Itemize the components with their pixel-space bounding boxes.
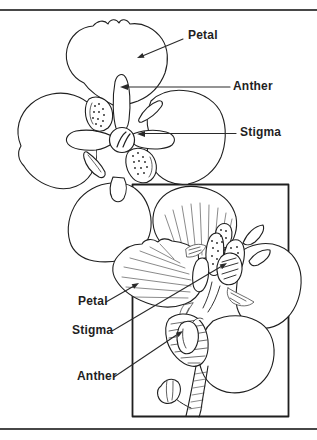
label-petal-top: Petal <box>188 29 218 41</box>
down-paddle <box>110 177 126 202</box>
anther-top-shape <box>113 75 130 131</box>
figure-page: Petal Anther Stigma Petal Stigma Anther <box>0 0 317 440</box>
label-anther-bottom: Anther <box>77 370 117 382</box>
left-paddle <box>66 130 113 150</box>
label-stigma-bottom: Stigma <box>72 324 113 336</box>
lower-bract <box>166 314 208 366</box>
stigma-side-shape <box>217 253 242 285</box>
bud <box>158 379 191 408</box>
anther-bottom-leader <box>114 331 183 377</box>
label-petal-bottom: Petal <box>78 295 108 307</box>
bottom-right-petal <box>199 316 274 393</box>
stigma-top-shape <box>110 128 135 153</box>
label-anther-top: Anther <box>233 80 273 92</box>
flower-illustration <box>0 0 317 440</box>
label-stigma-top: Stigma <box>240 126 281 138</box>
